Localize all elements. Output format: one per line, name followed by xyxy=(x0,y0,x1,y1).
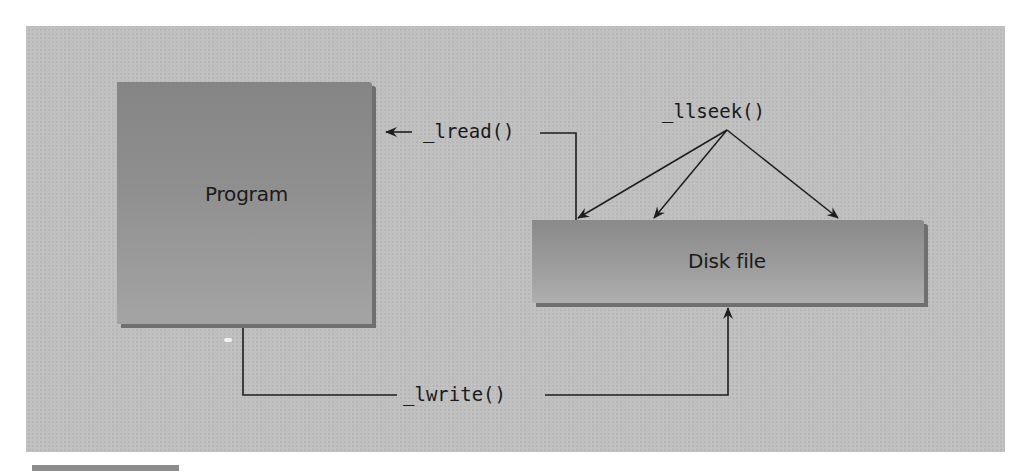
program-box: Program xyxy=(117,82,372,324)
lread-label: _lread() xyxy=(423,122,515,141)
lwrite-label: _lwrite() xyxy=(403,385,506,404)
caption-bar xyxy=(32,465,179,471)
llseek-label: _llseek() xyxy=(662,102,765,121)
disk-file-box: Disk file xyxy=(532,220,924,303)
program-label: Program xyxy=(205,182,288,206)
disk-file-label: Disk file xyxy=(688,249,766,273)
cursor-artifact xyxy=(224,338,232,342)
